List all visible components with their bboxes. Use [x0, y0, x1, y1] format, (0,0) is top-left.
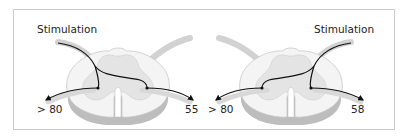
right-synapse-dot-1 [309, 86, 312, 89]
left-panel-right-output-value: 55 [185, 104, 198, 115]
right-panel-left-output-value: > 80 [208, 104, 234, 115]
left-panel-cord [48, 38, 190, 125]
right-synapse-dot-2 [260, 86, 263, 89]
right-stimulation-label: Stimulation [314, 24, 374, 35]
left-synapse-dot-2 [145, 86, 148, 89]
right-panel-cord [219, 38, 361, 125]
spinal-cord-diagram [0, 0, 402, 139]
left-stimulation-label: Stimulation [37, 24, 97, 35]
left-panel-left-output-value: > 80 [37, 104, 63, 115]
left-synapse-dot-1 [96, 86, 99, 89]
right-panel-right-output-value: 58 [351, 104, 364, 115]
